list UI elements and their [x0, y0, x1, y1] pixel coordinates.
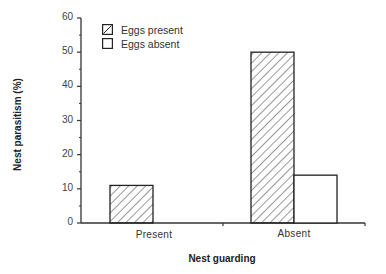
bar-absent-eggs-absent: [294, 175, 337, 223]
legend-label: Eggs absent: [121, 38, 179, 50]
bar-absent-eggs-present: [251, 52, 294, 223]
hatched-swatch-icon: [102, 24, 113, 35]
legend-item-eggs-present: Eggs present: [102, 23, 183, 36]
y-tick-label: 40: [53, 79, 73, 90]
category-label-present: Present: [133, 229, 175, 240]
y-tick-label: 60: [53, 11, 73, 22]
y-tick-label: 10: [53, 182, 73, 193]
legend-label: Eggs present: [121, 24, 183, 36]
y-tick-label: 50: [53, 45, 73, 56]
legend-item-eggs-absent: Eggs absent: [102, 37, 183, 50]
chart-plot-area: [0, 0, 386, 274]
legend: Eggs present Eggs absent: [102, 23, 183, 50]
x-axis-title: Nest guarding: [172, 253, 272, 264]
y-tick-label: 0: [53, 216, 73, 227]
y-axis-title: Nest parasitism (%): [12, 75, 23, 175]
bars: [110, 52, 337, 223]
category-label-absent: Absent: [273, 228, 315, 239]
open-swatch-icon: [102, 38, 113, 49]
y-tick-label: 20: [53, 148, 73, 159]
bar-present-eggs-present: [110, 185, 153, 223]
y-tick-label: 30: [53, 114, 73, 125]
